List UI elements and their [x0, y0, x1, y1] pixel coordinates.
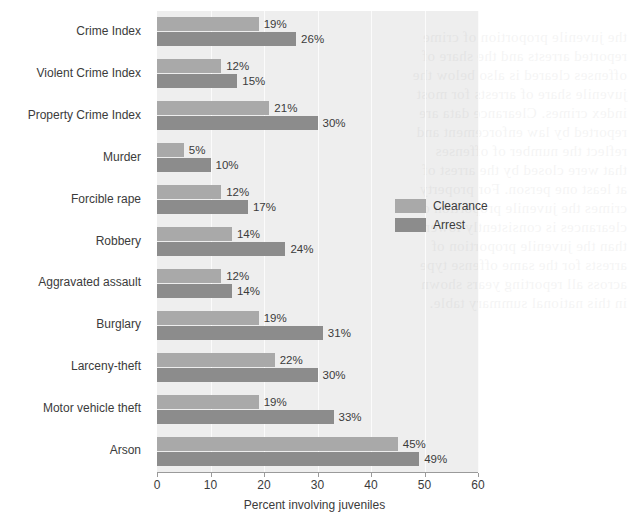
bar-arrest-2	[157, 116, 318, 130]
gridline-30	[318, 11, 319, 472]
bar-value-label-arrest-4: 17%	[253, 200, 276, 214]
category-label-2: Property Crime Index	[28, 108, 141, 122]
gridline-60	[478, 11, 479, 472]
category-axis-labels: Crime IndexViolent Crime IndexProperty C…	[0, 11, 150, 472]
bar-value-label-arrest-6: 14%	[237, 284, 260, 298]
x-tick-20	[264, 473, 265, 477]
bar-value-label-arrest-1: 15%	[242, 74, 265, 88]
bar-value-label-arrest-7: 31%	[328, 326, 351, 340]
bar-value-label-clearance-0: 19%	[264, 17, 287, 31]
bar-arrest-3	[157, 158, 211, 172]
legend: Clearance Arrest	[395, 198, 481, 236]
bar-value-label-arrest-8: 30%	[323, 368, 346, 382]
bar-clearance-5	[157, 227, 232, 241]
bar-value-label-clearance-4: 12%	[226, 185, 249, 199]
bar-value-label-clearance-2: 21%	[274, 101, 297, 115]
bar-arrest-9	[157, 410, 334, 424]
x-tick-50	[425, 473, 426, 477]
category-label-5: Robbery	[96, 234, 141, 248]
bar-value-label-arrest-5: 24%	[290, 242, 313, 256]
x-tick-30	[318, 473, 319, 477]
bar-arrest-10	[157, 452, 419, 466]
category-label-6: Aggravated assault	[38, 275, 141, 289]
bar-value-label-clearance-8: 22%	[280, 353, 303, 367]
category-label-4: Forcible rape	[71, 192, 141, 206]
bar-arrest-0	[157, 32, 296, 46]
bar-arrest-4	[157, 200, 248, 214]
bar-clearance-7	[157, 311, 259, 325]
legend-swatch-clearance-icon	[395, 199, 426, 213]
legend-swatch-arrest-icon	[395, 218, 426, 232]
bar-arrest-5	[157, 242, 285, 256]
bar-clearance-3	[157, 143, 184, 157]
category-label-9: Motor vehicle theft	[43, 401, 141, 415]
x-tick-label-20: 20	[257, 478, 270, 492]
plot-area: the juvenile proportion of crime reporte…	[157, 11, 478, 472]
gridline-40	[371, 11, 372, 472]
bar-clearance-1	[157, 59, 221, 73]
bar-value-label-clearance-3: 5%	[189, 143, 206, 157]
bar-value-label-clearance-5: 14%	[237, 227, 260, 241]
bar-clearance-6	[157, 269, 221, 283]
bar-clearance-2	[157, 101, 269, 115]
x-axis-title-text: Percent involving juveniles	[244, 498, 385, 512]
bar-value-label-arrest-9: 33%	[339, 410, 362, 424]
x-tick-label-40: 40	[364, 478, 377, 492]
bar-arrest-6	[157, 284, 232, 298]
x-tick-label-10: 10	[204, 478, 217, 492]
x-tick-label-50: 50	[418, 478, 431, 492]
category-label-7: Burglary	[96, 317, 141, 331]
bar-value-label-clearance-7: 19%	[264, 311, 287, 325]
bar-clearance-4	[157, 185, 221, 199]
bar-value-label-clearance-10: 45%	[403, 437, 426, 451]
x-tick-0	[157, 473, 158, 477]
legend-label-clearance: Clearance	[433, 198, 488, 214]
bar-clearance-9	[157, 395, 259, 409]
bar-value-label-arrest-10: 49%	[424, 452, 447, 466]
category-label-3: Murder	[103, 150, 141, 164]
bar-clearance-10	[157, 437, 398, 451]
bar-clearance-0	[157, 17, 259, 31]
category-label-8: Larceny-theft	[71, 359, 141, 373]
bar-value-label-clearance-1: 12%	[226, 59, 249, 73]
bar-value-label-clearance-9: 19%	[264, 395, 287, 409]
x-tick-label-60: 60	[471, 478, 484, 492]
x-tick-60	[478, 473, 479, 477]
legend-item-arrest: Arrest	[395, 217, 481, 234]
bar-arrest-8	[157, 368, 318, 382]
category-label-1: Violent Crime Index	[37, 66, 142, 80]
bar-arrest-7	[157, 326, 323, 340]
bar-clearance-8	[157, 353, 275, 367]
legend-label-arrest: Arrest	[433, 217, 465, 233]
gridline-50	[425, 11, 426, 472]
bar-value-label-arrest-2: 30%	[323, 116, 346, 130]
x-tick-label-0: 0	[154, 478, 161, 492]
x-tick-10	[211, 473, 212, 477]
scan-bleedthrough: the juvenile proportion of crime reporte…	[314, 22, 632, 483]
bar-value-label-clearance-6: 12%	[226, 269, 249, 283]
legend-item-clearance: Clearance	[395, 198, 481, 215]
category-label-0: Crime Index	[76, 24, 141, 38]
x-axis-title: Percent involving juveniles	[0, 498, 509, 512]
bar-value-label-arrest-0: 26%	[301, 32, 324, 46]
bar-arrest-1	[157, 74, 237, 88]
bar-value-label-arrest-3: 10%	[216, 158, 239, 172]
x-tick-40	[371, 473, 372, 477]
x-tick-label-30: 30	[311, 478, 324, 492]
category-label-10: Arson	[110, 443, 141, 457]
